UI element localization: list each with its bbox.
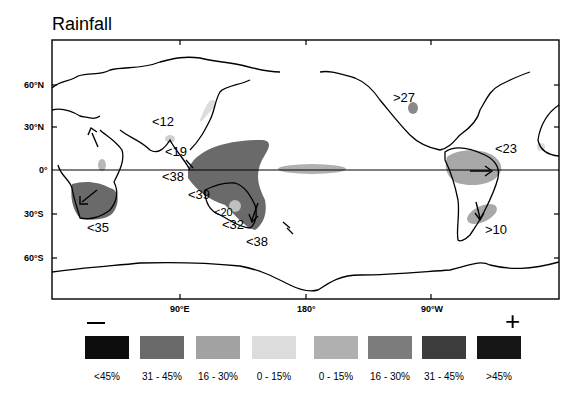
legend-label: 31 - 45% — [132, 371, 192, 382]
annotation: <32 — [222, 217, 244, 232]
lon-label-180: 180° — [297, 304, 316, 314]
world-map — [0, 0, 581, 330]
legend-label: >45% — [469, 371, 529, 382]
legend-label: 31 - 45% — [414, 371, 474, 382]
legend-label: <45% — [77, 371, 137, 382]
arrow-icon — [88, 128, 98, 147]
legend-swatch-neg-16-30 — [196, 336, 240, 359]
lat-label-60n: 60°N — [24, 80, 44, 90]
legend-minus-sign — [87, 322, 105, 324]
legend-label: 0 - 15% — [306, 371, 366, 382]
legend-label: 16 - 30% — [188, 371, 248, 382]
legend-label: 16 - 30% — [360, 371, 420, 382]
lat-label-60s: 60°S — [24, 253, 44, 263]
lat-label-30s: 30°S — [24, 209, 44, 219]
annotation: <19 — [165, 144, 187, 159]
lat-label-0: 0° — [39, 165, 48, 175]
annotation: <23 — [495, 141, 517, 156]
legend-plus-sign: + — [505, 308, 520, 334]
legend-swatch-neg-0-15 — [252, 336, 296, 359]
annotation: <12 — [152, 114, 174, 129]
legend-label: 0 - 15% — [244, 371, 304, 382]
lon-label-90e: 90°E — [170, 304, 190, 314]
legend-swatch-pos-0-15 — [314, 336, 358, 359]
annotation: <38 — [162, 169, 184, 184]
lon-label-90w: 90°W — [421, 304, 443, 314]
legend-swatch-pos-31-45 — [422, 336, 466, 359]
annotation: <35 — [87, 220, 109, 235]
legend-swatch-neg-45 — [85, 336, 129, 359]
annotation: <39 — [188, 187, 210, 202]
annotation: <38 — [246, 234, 268, 249]
legend-swatch-pos-16-30 — [368, 336, 412, 359]
legend-swatch-pos-45 — [477, 336, 521, 359]
flow-arrows — [80, 128, 492, 222]
anomaly-shading — [71, 100, 545, 230]
annotation: >27 — [393, 90, 415, 105]
legend-swatch-neg-31-45 — [140, 336, 184, 359]
annotation: >10 — [485, 222, 507, 237]
lat-label-30n: 30°N — [24, 122, 44, 132]
